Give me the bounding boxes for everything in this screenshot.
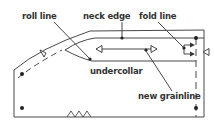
dot-left-upper — [20, 72, 24, 76]
dot-fold — [182, 46, 185, 49]
label-new-grainline: new grainline — [138, 92, 201, 101]
dot-right-top — [194, 36, 198, 40]
label-undercollar: undercollar — [90, 67, 143, 76]
dot-right-bottom — [194, 106, 198, 110]
seam-line-dashed — [18, 50, 62, 78]
label-neck-edge: neck edge — [83, 12, 130, 21]
dot-left-lower — [20, 106, 24, 110]
fold-line-pointer — [158, 22, 184, 48]
dot-grainline — [144, 48, 147, 51]
fold-arrowhead-top — [190, 43, 195, 48]
label-roll-line: roll line — [22, 12, 57, 21]
grainline-arrowhead-left — [96, 46, 102, 53]
notch-triangle-left — [40, 50, 46, 57]
dot-neck-edge — [120, 36, 123, 39]
fold-arrowhead-bottom — [190, 52, 195, 57]
undercollar-line — [65, 50, 196, 61]
dot-roll-line — [88, 57, 91, 60]
grainline-arrowhead-right — [151, 46, 157, 53]
zigzag-mark — [67, 111, 91, 117]
new-grainline-pointer — [146, 51, 172, 91]
label-fold-line: fold line — [139, 12, 176, 21]
